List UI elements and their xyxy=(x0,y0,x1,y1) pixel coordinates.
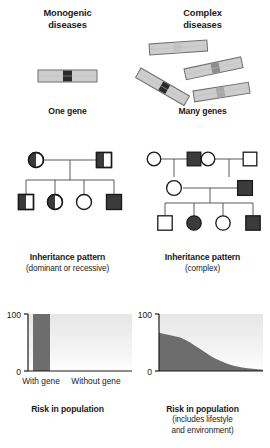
symbol-g1-grandmother-b xyxy=(201,152,215,166)
symbol-g1-father xyxy=(97,153,112,168)
monogenic-risk-chart-panel: 100 0 With gene Without gene xyxy=(0,308,135,398)
column-monogenic: Monogenic diseases One gene xyxy=(0,0,135,448)
monogenic-pedigree-svg xyxy=(0,148,135,220)
complex-risk-chart-svg: 100 0 xyxy=(135,308,270,398)
symbol-g3-child-4 xyxy=(246,216,260,230)
monogenic-chromosome-panel xyxy=(0,60,135,92)
monogenic-heading: Monogenic diseases xyxy=(0,8,135,31)
xtick-without-gene: Without gene xyxy=(71,376,121,386)
ytick-0: 0 xyxy=(147,367,152,377)
complex-chart-subcaption-line1: (includes lifestyle xyxy=(135,415,270,426)
complex-pedigree-caption: Inheritance pattern xyxy=(135,252,270,263)
figure-root: Monogenic diseases One gene xyxy=(0,0,270,448)
complex-gene-caption: Many genes xyxy=(135,106,270,117)
chromosome-1 xyxy=(149,40,208,55)
symbol-g1-grandfather-a xyxy=(187,152,201,166)
symbol-g1-mother xyxy=(29,153,44,168)
bar-with-gene xyxy=(33,314,50,371)
ytick-100: 100 xyxy=(7,310,22,320)
complex-pedigree-svg xyxy=(135,148,270,238)
symbol-g2-mother xyxy=(167,181,182,196)
complex-chart-subcaption-line2: and environment) xyxy=(135,426,270,437)
complex-heading: Complex diseases xyxy=(135,8,270,31)
symbol-g2-child-3 xyxy=(77,195,92,210)
chromosome-3 xyxy=(136,68,190,106)
monogenic-pedigree-panel xyxy=(0,148,135,220)
monogenic-risk-chart-svg: 100 0 With gene Without gene xyxy=(0,308,135,398)
complex-heading-line1: Complex xyxy=(135,8,270,20)
monogenic-gene-caption: One gene xyxy=(0,106,135,117)
chromosome-single xyxy=(38,70,97,82)
symbol-g2-child-4 xyxy=(107,195,122,210)
complex-pedigree-panel xyxy=(135,148,270,238)
monogenic-heading-line1: Monogenic xyxy=(0,8,135,20)
symbol-g1-grandmother-a xyxy=(147,152,161,166)
symbol-g2-child-1 xyxy=(19,195,34,210)
complex-heading-line2: diseases xyxy=(135,20,270,32)
symbol-g3-child-2 xyxy=(187,216,201,230)
xtick-with-gene: With gene xyxy=(22,376,60,386)
chromosome-2 xyxy=(184,57,243,80)
symbol-g2-father xyxy=(238,181,253,196)
symbol-g3-child-3 xyxy=(216,216,230,230)
monogenic-pedigree-caption: Inheritance pattern xyxy=(0,252,135,263)
symbol-g1-grandfather-b xyxy=(243,152,257,166)
complex-chromosome-panel xyxy=(135,32,270,108)
complex-chromosome-svg xyxy=(135,32,270,108)
ytick-100: 100 xyxy=(138,310,153,320)
monogenic-pedigree-subcaption: (dominant or recessive) xyxy=(0,264,135,275)
monogenic-chart-caption: Risk in population xyxy=(0,404,135,415)
complex-risk-chart-panel: 100 0 xyxy=(135,308,270,398)
ytick-0: 0 xyxy=(16,367,21,377)
chromosome-4 xyxy=(193,82,250,102)
symbol-g3-child-1 xyxy=(158,216,172,230)
symbol-g2-child-2 xyxy=(48,195,63,210)
column-complex: Complex diseases xyxy=(135,0,270,448)
complex-chart-caption: Risk in population xyxy=(135,404,270,415)
monogenic-heading-line2: diseases xyxy=(0,20,135,32)
complex-pedigree-subcaption: (complex) xyxy=(135,264,270,275)
monogenic-chromosome-svg xyxy=(0,60,135,92)
